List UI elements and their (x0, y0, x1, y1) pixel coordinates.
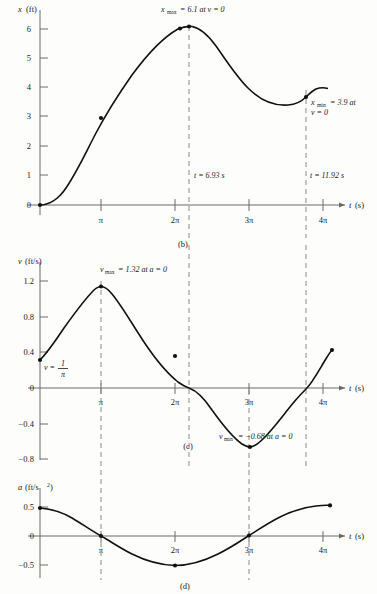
panel-c-velocity-curve (40, 287, 332, 448)
panel-c-caption: (c) (183, 441, 193, 451)
panel-b-y-axis-label-var: x (17, 4, 22, 14)
panel-d-xtick-2pi: 2π (171, 545, 180, 555)
panel-d-y-axis-label-close: ) (50, 482, 53, 492)
panel-c-ytick-0-4: 0.4 (23, 347, 34, 357)
panel-b-ytick-1: 1 (27, 170, 31, 180)
panel-d-x-axis-label-unit: (s) (355, 531, 364, 541)
annotation-xmin-line2: v = 0 (311, 108, 328, 117)
panel-c-xtick-4pi: 4π (319, 397, 328, 407)
panel-b-annotation-xmin: x min = 3.9 at v = 0 (310, 98, 356, 117)
panel-c-ytick-1-2: 1.2 (23, 276, 34, 286)
panel-c-ytick-0-8: 0.8 (23, 312, 34, 322)
annotation-vmin-var: v (219, 432, 223, 441)
panel-c-x-axis-label-var: t (349, 383, 352, 393)
annotation-xmin-var: x (310, 98, 315, 107)
panel-b-annotation-t1192: t = 11.92 s (310, 171, 344, 180)
panel-b-y-axis-label-unit: (ft) (26, 4, 37, 14)
panel-b-x-axis-label-unit: (s) (355, 200, 364, 210)
panel-d-data-point (328, 503, 332, 507)
panel-c-data-point (330, 348, 334, 352)
panel-d-y-axis-label-var: a (18, 482, 22, 492)
panel-b-data-point-xmax (187, 24, 191, 28)
panel-c-y-axis-label-unit: (ft/s) (25, 256, 42, 266)
annotation-xmax-subscript: max (167, 9, 177, 15)
panel-c-velocity-chart: 1.2 0.8 0.4 0 −0.4 −0.8 π 2π 3π 4π v (ft… (18, 245, 364, 470)
panel-d-acceleration-curve (40, 505, 330, 565)
panel-c-y-axis-label-var: v (18, 256, 22, 266)
panel-b-xtick-3pi: 3π (245, 215, 254, 225)
panel-d-x-axis-arrow (339, 534, 345, 539)
panel-c-annotation-v-initial: v = 1 π (44, 359, 68, 379)
annotation-vmax-var: v (100, 265, 104, 274)
panel-c-x-axis-arrow (339, 386, 345, 391)
figure-svg: 6 5 4 3 2 1 0 π 2π 3π 4π x (ft) t (s) (0, 0, 377, 594)
annotation-v0-numerator: 1 (61, 359, 65, 368)
panel-d-ytick-neg0-5: −0.5 (19, 560, 34, 570)
panel-b-ytick-4: 4 (27, 82, 32, 92)
panel-b-data-point-xmin (304, 95, 308, 99)
panel-b-xtick-2pi: 2π (171, 215, 180, 225)
panel-b-ytick-5: 5 (27, 53, 31, 63)
panel-d-y-axis-label-unit: (ft/s (25, 482, 39, 492)
annotation-xmin-rest: = 3.9 at (330, 98, 356, 107)
panel-b-data-point (178, 26, 182, 30)
panel-c-data-point-vmin (248, 445, 252, 449)
panel-d-caption: (d) (180, 581, 190, 591)
panel-c-data-point-vmax (99, 284, 103, 288)
panel-b-annotation-xmax: x max = 6.1 at v = 0 (160, 5, 225, 15)
panel-b-ytick-0: 0 (27, 200, 31, 210)
panel-b-ytick-6: 6 (27, 24, 31, 34)
annotation-v0-denominator: π (61, 370, 66, 379)
annotation-v0-equals: v = (44, 363, 55, 372)
panel-b-annotation-t693: t = 6.93 s (194, 171, 225, 180)
figure-container: 6 5 4 3 2 1 0 π 2π 3π 4π x (ft) t (s) (0, 0, 377, 594)
panel-d-ytick-0: 0 (30, 531, 34, 541)
panel-c-ytick-neg0-4: −0.4 (19, 419, 35, 429)
panel-b-ytick-3: 3 (27, 111, 31, 121)
panel-c-ytick-neg0-8: −0.8 (19, 454, 34, 464)
annotation-vmin-rest: = −0.68 at a = 0 (238, 432, 292, 441)
panel-b-caption: (b) (178, 239, 188, 249)
annotation-vmax-subscript: max (105, 269, 115, 275)
annotation-xmax-rest: = 6.1 at v = 0 (180, 5, 225, 14)
panel-d-ytick-0-5: 0.5 (23, 502, 34, 512)
annotation-vmax-rest: = 1.32 at a = 0 (118, 265, 167, 274)
panel-b-data-point (38, 203, 42, 207)
annotation-xmax-var: x (160, 5, 165, 14)
panel-d-data-point (173, 563, 177, 567)
panel-d-data-point (38, 506, 42, 510)
panel-b-data-point (99, 116, 103, 120)
panel-b-y-ticks (40, 29, 48, 175)
panel-b-position-curve (40, 26, 328, 205)
panel-b-position-chart: 6 5 4 3 2 1 0 π 2π 3π 4π x (ft) t (s) (17, 4, 364, 249)
panel-d-data-point (99, 534, 103, 538)
panel-c-xtick-2pi: 2π (171, 397, 180, 407)
panel-c-data-point (173, 354, 177, 358)
panel-d-xtick-4pi: 4π (319, 545, 328, 555)
panel-c-data-point-initial (38, 358, 42, 362)
panel-b-x-axis-label-var: t (349, 200, 352, 210)
panel-c-x-axis-label-unit: (s) (355, 383, 364, 393)
panel-b-xtick-pi: π (99, 215, 104, 225)
panel-b-ytick-2: 2 (27, 141, 31, 151)
panel-d-acceleration-chart: 0.5 0 −0.5 π 2π 3π 4π a (ft/s 2 ) t (s) … (18, 470, 364, 591)
panel-b-xtick-4pi: 4π (319, 215, 328, 225)
panel-b-x-axis-arrow (339, 203, 345, 208)
panel-c-annotation-vmax: v max = 1.32 at a = 0 (100, 265, 167, 275)
panel-d-data-point (247, 533, 251, 537)
panel-c-ytick-0: 0 (30, 383, 34, 393)
panel-d-x-axis-label-var: t (349, 531, 352, 541)
annotation-vmin-subscript: min (224, 436, 233, 442)
